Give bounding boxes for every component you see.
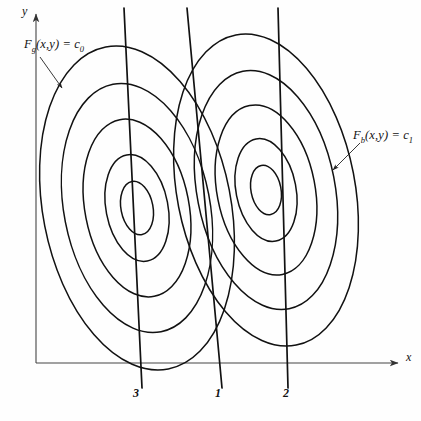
contour-level-3 <box>201 96 330 284</box>
leader-arrow-left <box>40 57 62 88</box>
contour-level-5 <box>148 18 383 362</box>
straight-lines <box>124 8 288 388</box>
contour-level-2 <box>227 133 306 247</box>
contour-level-1 <box>116 178 158 237</box>
contour-level-1 <box>247 163 286 218</box>
contour-family-g <box>13 29 260 387</box>
straight-line-3 <box>124 8 142 388</box>
contour-diagram: y x Fg(x,y) = c0 Fb(x,y) = c1 312 <box>0 0 421 421</box>
left-family-label: Fg(x,y) = c0 <box>24 37 84 54</box>
x-axis-label: x <box>406 350 411 365</box>
contour-level-4 <box>41 70 232 345</box>
contour-family-b <box>148 18 383 362</box>
straight-line-1 <box>187 8 222 388</box>
diagram-canvas <box>0 0 421 421</box>
line-label-1: 1 <box>215 386 221 401</box>
axes-group <box>36 14 398 363</box>
line-label-2: 2 <box>283 386 289 401</box>
y-axis-label: y <box>22 4 27 19</box>
right-family-label: Fb(x,y) = c1 <box>353 128 413 145</box>
straight-line-2 <box>278 8 288 388</box>
contour-level-2 <box>96 149 177 267</box>
contour-curves <box>13 18 383 387</box>
line-label-3: 3 <box>133 386 139 401</box>
contour-level-5 <box>13 29 260 387</box>
contour-level-4 <box>175 58 357 322</box>
